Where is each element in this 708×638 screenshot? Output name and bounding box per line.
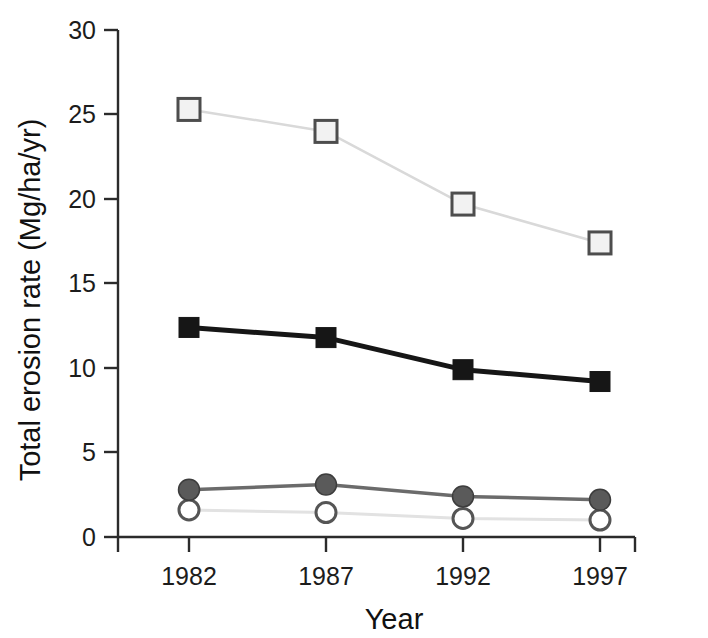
erosion-rate-line-chart: 30 25 20 15 10 5 0 Total erosion rate (M… [0, 0, 708, 638]
data-point-filled-square-series-1992 [453, 360, 473, 380]
y-axis-title: Total erosion rate (Mg/ha/yr) [14, 119, 46, 482]
data-point-open-square-series-1997 [589, 232, 611, 254]
data-point-filled-circle-series-1992 [453, 486, 474, 507]
x-tick-label-1997: 1997 [572, 562, 628, 590]
y-tick-label-20: 20 [68, 185, 96, 213]
y-tick-label-25: 25 [68, 100, 96, 128]
x-tick-label-1982: 1982 [161, 562, 217, 590]
data-point-filled-square-series-1982 [179, 317, 199, 337]
data-point-open-circle-series-1992 [453, 508, 473, 528]
data-point-open-square-series-1992 [452, 193, 474, 215]
y-tick-label-30: 30 [68, 16, 96, 44]
data-point-filled-circle-series-1997 [590, 489, 611, 510]
y-tick-label-0: 0 [82, 523, 96, 551]
data-point-open-square-series-1982 [178, 98, 200, 120]
x-axis-title: Year [365, 603, 424, 635]
y-tick-label-10: 10 [68, 354, 96, 382]
data-point-open-square-series-1987 [315, 120, 337, 142]
chart-figure: 30 25 20 15 10 5 0 Total erosion rate (M… [0, 0, 708, 638]
chart-background [0, 0, 708, 638]
data-point-filled-square-series-1997 [590, 372, 610, 392]
y-tick-label-15: 15 [68, 269, 96, 297]
y-tick-label-5: 5 [82, 438, 96, 466]
data-point-filled-circle-series-1987 [316, 474, 337, 495]
data-point-open-circle-series-1982 [179, 500, 199, 520]
data-point-open-circle-series-1987 [316, 502, 336, 522]
data-point-filled-circle-series-1982 [179, 479, 200, 500]
x-tick-label-1992: 1992 [435, 562, 491, 590]
data-point-open-circle-series-1997 [590, 510, 610, 530]
x-tick-label-1987: 1987 [298, 562, 354, 590]
data-point-filled-square-series-1987 [316, 328, 336, 348]
